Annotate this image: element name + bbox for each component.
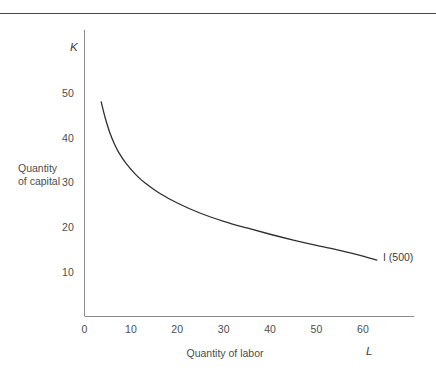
y-tick-label-20: 20: [52, 221, 74, 233]
x-tick-label-40: 40: [264, 323, 276, 335]
isoquant-curve-i500: [101, 102, 377, 260]
y-axis-title-line1: Quantity: [18, 162, 60, 175]
x-tick-label-10: 10: [125, 323, 137, 335]
isoquant-figure: K L Quantity of capital Quantity of labo…: [0, 0, 436, 380]
x-axis-title: Quantity of labor: [186, 347, 263, 359]
y-tick-label-30: 30: [52, 176, 74, 188]
y-tick-label-40: 40: [52, 132, 74, 144]
x-axis-symbol-l: L: [366, 345, 372, 357]
y-tick-label-10: 10: [52, 266, 74, 278]
x-tick-label-20: 20: [171, 323, 183, 335]
x-tick-label-0: 0: [82, 323, 88, 335]
x-tick-label-30: 30: [218, 323, 230, 335]
y-tick-label-50: 50: [52, 87, 74, 99]
x-tick-label-50: 50: [311, 323, 323, 335]
y-axis-symbol-k: K: [70, 41, 78, 53]
x-tick-label-60: 60: [357, 323, 369, 335]
curve-annotation-i500: I (500): [383, 251, 413, 263]
